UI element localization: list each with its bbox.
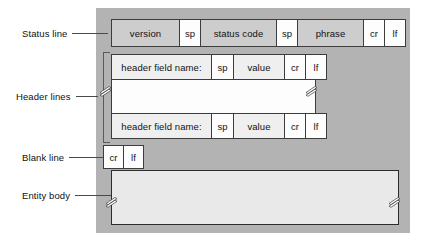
header-lines-bracket bbox=[103, 52, 110, 143]
callout-blank-line: Blank line bbox=[22, 150, 108, 164]
header-line-2-cell-cr: cr bbox=[284, 113, 306, 139]
callout-header-lines-label: Header lines bbox=[16, 91, 71, 102]
status-line-cell-sp: sp bbox=[276, 19, 298, 47]
header-line-2-cell-lf: lf bbox=[305, 113, 327, 139]
header-lines-continuation-band bbox=[111, 79, 316, 114]
entity-body-box bbox=[111, 170, 399, 225]
leader-line-entity bbox=[75, 195, 113, 196]
leader-line-status bbox=[72, 33, 108, 34]
header-line-1-cell-sp: sp bbox=[211, 54, 234, 80]
header-line-row-1: header field name:spvaluecrlf bbox=[111, 54, 327, 80]
status-line-cell-cr: cr bbox=[363, 19, 385, 47]
blank-line-cell-lf: lf bbox=[123, 145, 144, 169]
header-line-2-cell-value: value bbox=[233, 113, 285, 139]
header-line-2-cell-header-field-name: header field name: bbox=[111, 113, 212, 139]
status-line-cell-status-code: status code bbox=[200, 19, 277, 47]
status-line-cell-phrase: phrase bbox=[297, 19, 364, 47]
callout-entity-body-label: Entity body bbox=[22, 190, 70, 201]
leader-line-header bbox=[76, 96, 98, 97]
http-response-format-diagram: Status line Header lines Blank line Enti… bbox=[0, 0, 436, 251]
status-line-cell-sp: sp bbox=[179, 19, 201, 47]
callout-status-line: Status line bbox=[22, 26, 108, 40]
blank-line-cell-cr: cr bbox=[103, 145, 124, 169]
callout-header-lines: Header lines bbox=[16, 89, 98, 103]
callout-blank-line-label: Blank line bbox=[22, 152, 64, 163]
status-line-cell-lf: lf bbox=[384, 19, 406, 47]
header-line-2-cell-sp: sp bbox=[211, 113, 234, 139]
status-line-row: versionspstatus codespphrasecrlf bbox=[111, 19, 406, 47]
callout-entity-body: Entity body bbox=[22, 188, 113, 202]
header-line-row-2: header field name:spvaluecrlf bbox=[111, 113, 327, 139]
header-line-1-cell-header-field-name: header field name: bbox=[111, 54, 212, 80]
header-line-1-cell-cr: cr bbox=[284, 54, 306, 80]
status-line-cell-version: version bbox=[111, 19, 180, 47]
header-line-1-cell-lf: lf bbox=[305, 54, 327, 80]
blank-line-row: crlf bbox=[103, 145, 144, 169]
header-line-1-cell-value: value bbox=[233, 54, 285, 80]
callout-status-line-label: Status line bbox=[22, 28, 67, 39]
